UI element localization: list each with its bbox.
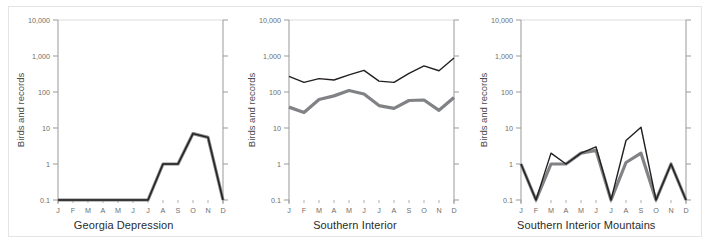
y-tick-label: 0.1 — [503, 196, 513, 205]
x-tick-label: N — [437, 206, 442, 215]
x-tick-label: J — [519, 206, 523, 215]
y-tick-label: 10,000 — [259, 16, 281, 25]
series-line-birds — [289, 91, 454, 113]
series-line-birds — [58, 134, 223, 200]
y-tick-label: 10,000 — [491, 16, 513, 25]
y-tick-label: 10,000 — [28, 16, 50, 25]
y-tick-label: 100 — [501, 88, 513, 97]
x-tick-label: J — [287, 206, 291, 215]
y-axis-title: Birds and records — [478, 73, 489, 148]
y-tick-label: 10 — [505, 124, 513, 133]
series-line-records — [58, 134, 223, 200]
x-tick-label: J — [131, 206, 135, 215]
chart-panel: 10,0001,0001001010.1JFMAMJJASONDBirds an… — [8, 6, 239, 237]
y-tick-label: 0.1 — [271, 196, 281, 205]
y-tick-label: 100 — [269, 88, 281, 97]
y-tick-label: 10 — [42, 124, 50, 133]
y-tick-label: 1,000 — [263, 52, 281, 61]
chart-canvas: 10,0001,0001001010.1JFMAMJJASONDBirds an… — [8, 6, 239, 237]
x-tick-label: M — [548, 206, 554, 215]
y-tick-label: 1,000 — [495, 52, 513, 61]
x-tick-label: S — [638, 206, 643, 215]
y-tick-label: 1 — [277, 160, 281, 169]
chart-canvas: 10,0001,0001001010.1JFMAMJJASONDBirds an… — [239, 6, 470, 237]
figure-birds-and-records: 10,0001,0001001010.1JFMAMJJASONDBirds an… — [0, 0, 710, 249]
y-tick-label: 0.1 — [40, 196, 50, 205]
x-tick-label: A — [623, 206, 628, 215]
x-tick-label: A — [563, 206, 568, 215]
x-tick-label: D — [220, 206, 225, 215]
y-tick-label: 1 — [509, 160, 513, 169]
x-tick-label: M — [85, 206, 91, 215]
x-tick-label: D — [452, 206, 457, 215]
chart-canvas: 10,0001,0001001010.1JFMAMJJASONDBirds an… — [471, 6, 702, 237]
x-tick-label: F — [533, 206, 538, 215]
panel-caption: Southern Interior — [239, 219, 470, 231]
x-tick-label: N — [668, 206, 673, 215]
chart-panel: 10,0001,0001001010.1JFMAMJJASONDBirds an… — [471, 6, 702, 237]
x-tick-label: A — [101, 206, 106, 215]
chart-panel: 10,0001,0001001010.1JFMAMJJASONDBirds an… — [239, 6, 470, 237]
x-tick-label: A — [392, 206, 397, 215]
x-tick-label: D — [683, 206, 688, 215]
x-tick-label: F — [302, 206, 307, 215]
x-tick-label: F — [71, 206, 76, 215]
x-tick-label: J — [609, 206, 613, 215]
x-tick-label: A — [161, 206, 166, 215]
x-tick-label: O — [653, 206, 659, 215]
x-tick-label: J — [56, 206, 60, 215]
x-tick-label: M — [115, 206, 121, 215]
x-tick-label: M — [346, 206, 352, 215]
x-tick-label: J — [362, 206, 366, 215]
x-tick-label: M — [316, 206, 322, 215]
y-axis-title: Birds and records — [246, 73, 257, 148]
x-tick-label: O — [190, 206, 196, 215]
x-tick-label: A — [332, 206, 337, 215]
x-tick-label: N — [205, 206, 210, 215]
x-tick-label: O — [421, 206, 427, 215]
y-tick-label: 10 — [273, 124, 281, 133]
panel-caption: Georgia Depression — [8, 219, 239, 231]
x-tick-label: S — [407, 206, 412, 215]
x-tick-label: S — [176, 206, 181, 215]
panel-caption: Southern Interior Mountains — [471, 219, 702, 231]
x-tick-label: J — [146, 206, 150, 215]
x-tick-label: J — [377, 206, 381, 215]
y-tick-label: 1 — [46, 160, 50, 169]
y-tick-label: 1,000 — [32, 52, 50, 61]
series-line-records — [289, 58, 454, 82]
x-tick-label: J — [594, 206, 598, 215]
panel-container: 10,0001,0001001010.1JFMAMJJASONDBirds an… — [8, 6, 702, 237]
series-line-records — [521, 127, 686, 200]
x-tick-label: M — [578, 206, 584, 215]
y-tick-label: 100 — [38, 88, 50, 97]
y-axis-title: Birds and records — [15, 73, 26, 148]
